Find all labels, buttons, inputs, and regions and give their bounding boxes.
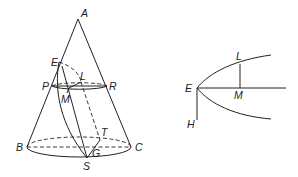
label-L: L: [80, 70, 86, 82]
base-ellipse-back: [27, 137, 131, 147]
label-R: R: [109, 80, 117, 92]
label-P: P: [42, 80, 49, 92]
label-T: T: [101, 126, 109, 138]
parabola-back-line-LT: [81, 82, 100, 140]
label-B: B: [16, 141, 23, 153]
parabola-upper-branch: [197, 55, 271, 88]
label-L-right: L: [236, 50, 242, 62]
cone-figure: A E L P R M T B G C S: [16, 7, 143, 172]
label-C: C: [135, 141, 143, 153]
label-H-right: H: [187, 118, 195, 130]
parabola-back-curve-upper: [59, 62, 81, 82]
label-S: S: [83, 160, 90, 172]
label-G: G: [92, 147, 100, 159]
label-A: A: [80, 7, 88, 19]
label-M: M: [61, 93, 70, 105]
diagram-canvas: A E L P R M T B G C S L E M H: [0, 0, 298, 177]
base-ellipse-front: [27, 147, 131, 157]
label-M-right: M: [234, 89, 243, 101]
label-E: E: [51, 56, 59, 68]
label-E-right: E: [185, 82, 193, 94]
parabola-figure: L E M H: [185, 50, 286, 130]
cone-left-slant: [27, 19, 78, 147]
